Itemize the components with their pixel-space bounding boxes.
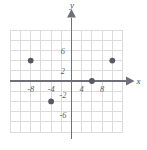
y-tick-label-2: 2 xyxy=(61,67,65,76)
y-axis xyxy=(67,9,76,139)
data-point xyxy=(109,58,115,64)
coordinate-plane-figure: x y 6 2 -2 -6 -8 -4 4 8 xyxy=(0,0,147,150)
y-tick-label-6: 6 xyxy=(61,47,66,56)
data-point xyxy=(28,58,34,64)
y-axis-label: y xyxy=(69,0,75,10)
scatter-plot: x y 6 2 -2 -6 -8 -4 4 8 xyxy=(0,0,147,150)
data-point xyxy=(89,78,95,84)
x-tick-label-4: 4 xyxy=(80,85,84,94)
x-axis-label: x xyxy=(135,76,141,86)
y-axis-arrow-icon xyxy=(67,9,76,18)
y-tick-label-neg2: -2 xyxy=(60,91,67,100)
y-tick-label-neg6: -6 xyxy=(60,111,68,120)
x-tick-label-neg4: -4 xyxy=(48,85,55,94)
x-tick-label-8: 8 xyxy=(100,85,105,94)
x-tick-label-neg8: -8 xyxy=(27,85,35,94)
x-axis-arrow-icon xyxy=(126,77,135,86)
data-point xyxy=(48,99,54,105)
